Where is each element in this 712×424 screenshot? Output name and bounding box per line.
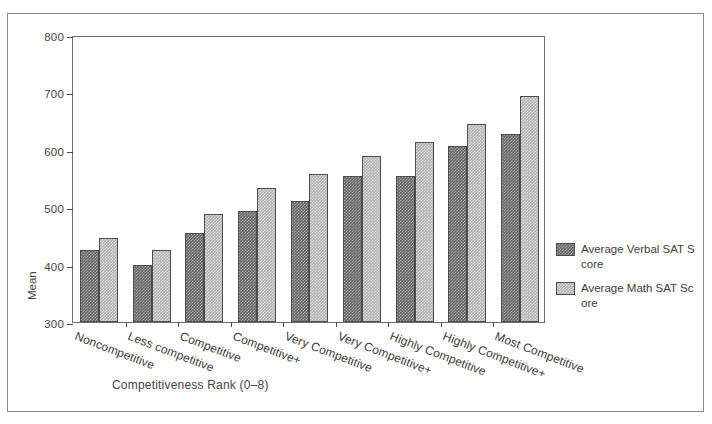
bar-group [493, 37, 546, 322]
bar-math [99, 238, 118, 322]
bar-verbal [396, 176, 415, 322]
bars-layer [73, 37, 544, 322]
x-axis-tick [441, 322, 442, 327]
bar-verbal [291, 201, 310, 322]
bar-verbal [343, 176, 362, 322]
x-axis-tick [126, 322, 127, 327]
bar-math [467, 124, 486, 322]
y-axis-tick-label: 300 [44, 318, 64, 330]
x-axis-tick [231, 322, 232, 327]
bar-group [126, 37, 179, 322]
bar-verbal [80, 250, 99, 322]
legend: Average Verbal SAT Score Average Math SA… [556, 242, 706, 320]
bar-verbal [501, 134, 520, 322]
bar-group [178, 37, 231, 322]
bar-math [309, 174, 328, 322]
bar-math [520, 96, 539, 322]
legend-swatch-math-icon [556, 282, 575, 295]
bar-verbal [133, 265, 152, 322]
legend-swatch-verbal-icon [556, 243, 575, 256]
y-axis-title: Mean [26, 271, 38, 300]
bar-math [362, 156, 381, 322]
bar-group [283, 37, 336, 322]
bar-math [204, 214, 223, 322]
legend-item-math: Average Math SAT Score [556, 281, 706, 311]
bar-math [257, 188, 276, 322]
bar-group [336, 37, 389, 322]
x-axis-title: Competitiveness Rank (0–8) [112, 378, 269, 392]
bar-group [73, 37, 126, 322]
bar-group [231, 37, 284, 322]
legend-item-verbal: Average Verbal SAT Score [556, 242, 706, 272]
x-axis-tick [178, 322, 179, 327]
y-axis-tick-label: 400 [44, 261, 64, 273]
bar-math [415, 142, 434, 322]
x-axis-tick [283, 322, 284, 327]
y-axis-tick-label: 500 [44, 203, 64, 215]
bar-verbal [185, 233, 204, 322]
legend-label-verbal: Average Verbal SAT Score [581, 242, 699, 272]
y-axis-tick-label: 600 [44, 146, 64, 158]
y-axis-tick-label: 700 [44, 88, 64, 100]
x-axis-tick [388, 322, 389, 327]
plot-area: 300400500600700800 [72, 36, 545, 323]
x-axis-tick [493, 322, 494, 327]
bar-group [388, 37, 441, 322]
bar-group [441, 37, 494, 322]
y-axis-tick-label: 800 [44, 31, 64, 43]
bar-math [152, 250, 171, 322]
bar-verbal [238, 211, 257, 322]
legend-label-math: Average Math SAT Score [581, 281, 699, 311]
bar-verbal [448, 146, 467, 322]
x-axis-tick [336, 322, 337, 327]
bar-chart: Mean Competitiveness Rank (0–8) 30040050… [0, 0, 712, 424]
y-axis-tick [67, 324, 73, 325]
